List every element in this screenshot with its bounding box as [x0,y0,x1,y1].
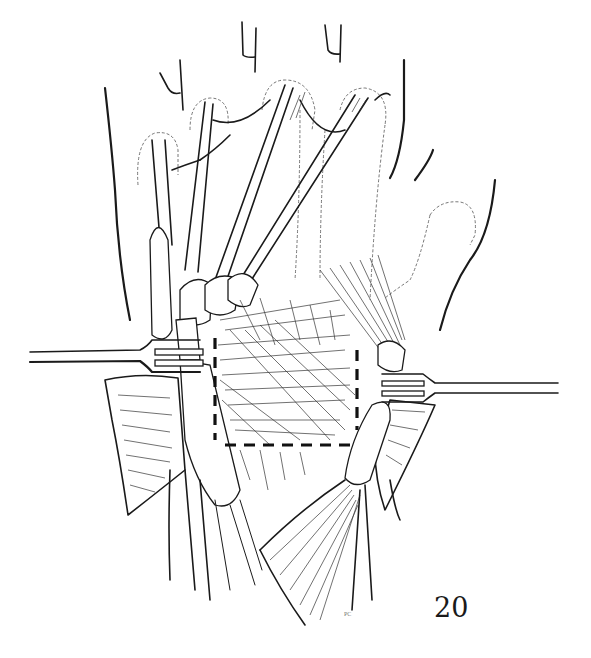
left-retractor [30,340,203,372]
right-retractor [382,374,558,402]
metacarpal-outlines [138,80,476,300]
figure-number: 20 [434,592,468,623]
lower-muscle-fan [260,480,372,625]
right-tendon-fan [320,255,405,372]
anatomical-illustration [0,0,591,658]
extensor-tendons [152,85,390,285]
ligament-fibers [218,298,355,490]
tendon-sheath-right [345,402,390,484]
tendon-sheaths-left [150,228,258,507]
artist-signature: PC [344,611,351,617]
left-retinaculum-flap [105,375,185,515]
finger-web-marks [160,22,341,110]
